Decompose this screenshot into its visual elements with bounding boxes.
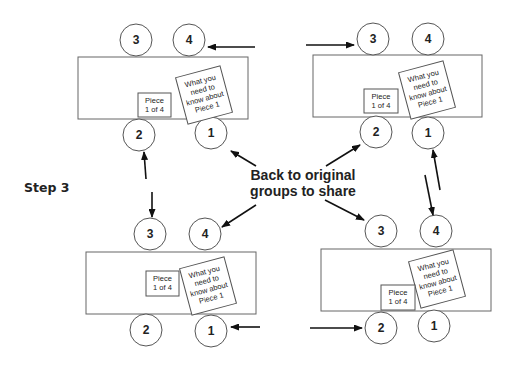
seat-label: 4 xyxy=(202,227,209,241)
seat-label: 2 xyxy=(136,128,143,142)
group-top-left: 3 4 2 1 Piece 1 of 4 What you need to kn… xyxy=(78,24,248,151)
group-bottom-right: 3 4 2 1 What you need to know about Piec… xyxy=(321,215,491,344)
arrow-icon xyxy=(433,150,440,190)
diagram-canvas: Step 3 Back to original groups to share … xyxy=(0,0,518,381)
seat-label: 3 xyxy=(147,227,154,241)
seat-label: 2 xyxy=(378,321,385,335)
arrow-icon xyxy=(222,205,256,227)
seat-label: 2 xyxy=(143,323,150,337)
piece-card-line2: 1 of 4 xyxy=(145,105,164,114)
piece-card-line1: Piece xyxy=(153,274,172,283)
arrow-icon xyxy=(231,151,256,166)
seat-label: 4 xyxy=(186,33,193,47)
arrow-icon xyxy=(425,175,433,215)
center-label-line2: groups to share xyxy=(250,183,356,199)
piece-card-line1: Piece xyxy=(145,96,164,105)
seat-label: 1 xyxy=(208,126,215,140)
piece-card-line1: Piece xyxy=(389,288,408,297)
seat-label: 4 xyxy=(433,224,440,238)
seat-label: 1 xyxy=(208,324,215,338)
seat-label: 2 xyxy=(373,125,380,139)
seat-label: 4 xyxy=(425,32,432,46)
seat-label: 3 xyxy=(370,32,377,46)
piece-card-line2: 1 of 4 xyxy=(389,297,408,306)
seat-label: 3 xyxy=(133,33,140,47)
piece-card-line2: 1 of 4 xyxy=(153,283,172,292)
seat-label: 1 xyxy=(425,126,432,140)
arrow-icon xyxy=(144,152,146,179)
seat-label: 3 xyxy=(378,224,385,238)
piece-card-line1: Piece xyxy=(372,92,391,101)
group-bottom-left: 3 4 2 1 Piece 1 of 4 What you need to kn… xyxy=(86,218,256,347)
step-label: Step 3 xyxy=(24,180,69,195)
group-top-right: 3 4 2 1 Piece 1 of 4 What you need to kn… xyxy=(313,23,482,149)
arrow-icon xyxy=(326,145,360,166)
seat-label: 1 xyxy=(431,319,438,333)
piece-card-line2: 1 of 4 xyxy=(372,101,391,110)
arrow-icon xyxy=(325,200,364,220)
center-label-line1: Back to original xyxy=(250,167,355,183)
